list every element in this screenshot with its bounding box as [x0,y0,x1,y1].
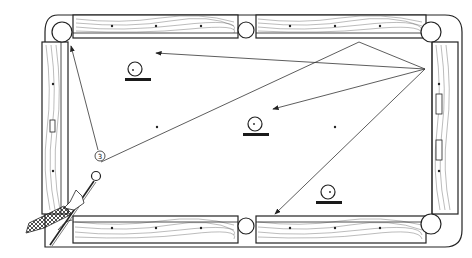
pockets [52,22,441,234]
object-ball-2 [243,117,269,136]
bottom-right-rail [256,216,426,243]
spot-left [156,126,158,128]
object-ball-1 [125,62,151,81]
pocket-top-middle [238,22,254,38]
pocket-top-left [52,22,72,42]
top-right-rail [256,15,426,38]
cue-ball [92,172,101,181]
bottom-left-rail [73,216,238,243]
top-left-rail [73,15,238,38]
left-rail [42,42,68,214]
shot-number-text: 3 [98,153,102,161]
pocket-bottom-right [421,214,441,234]
pocket-top-right [421,22,441,42]
right-rail-plate-upper [436,94,442,114]
left-rail-plate [50,120,55,132]
pool-diagram: 3 [0,0,472,258]
shot-number-label: 3 [95,151,105,161]
pocket-bottom-middle [238,218,254,234]
right-rail [432,42,458,214]
right-rail-plate-lower [436,140,442,160]
spot-right [334,126,336,128]
object-ball-3 [316,185,342,204]
shot-paths [71,42,425,214]
